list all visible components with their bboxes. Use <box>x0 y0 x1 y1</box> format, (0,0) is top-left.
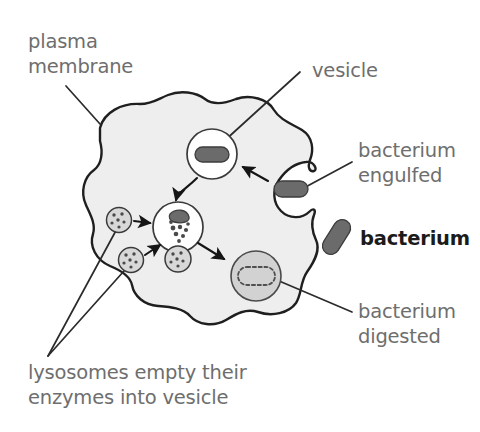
phagocytosis-diagram: plasma membrane vesicle bacterium engulf… <box>0 0 480 432</box>
label-plasma-membrane-line2: membrane <box>28 55 133 78</box>
label-plasma-membrane-line1: plasma <box>28 30 98 53</box>
label-bacterium-key: bacterium <box>360 227 470 250</box>
label-bacterium-engulfed-line2: engulfed <box>358 164 442 187</box>
label-lysosomes-caption-line2: enzymes into vesicle <box>28 386 228 409</box>
lysosome-fusing <box>165 246 191 272</box>
label-bacterium-digested-line2: digested <box>358 325 441 348</box>
label-bacterium-digested-line1: bacterium <box>358 300 456 323</box>
diagram-canvas: plasma membrane vesicle bacterium engulf… <box>0 0 480 432</box>
label-bacterium-engulfed-line1: bacterium <box>358 139 456 162</box>
lysosome-lower <box>119 248 144 273</box>
vesicle-enclosed <box>187 129 237 179</box>
leader-lysosome-lower <box>48 262 132 356</box>
lysosome-upper <box>107 208 132 233</box>
vesicle-digested <box>231 251 281 301</box>
leader-lysosome-upper <box>48 225 119 356</box>
bacterium-engulfed-glyph <box>274 181 308 197</box>
label-vesicle: vesicle <box>312 59 378 82</box>
leader-plasma-membrane <box>66 86 100 124</box>
bacterium-key-glyph <box>319 216 354 257</box>
label-lysosomes-caption-line1: lysosomes empty their <box>28 361 248 384</box>
